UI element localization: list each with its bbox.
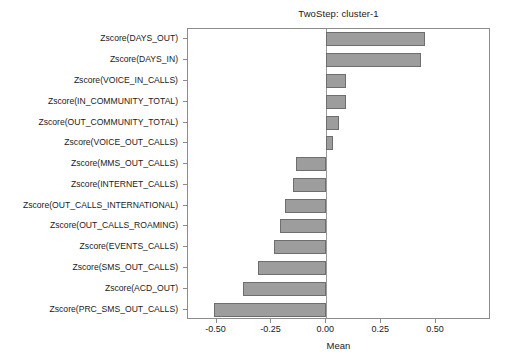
x-axis-tick — [270, 319, 271, 323]
y-axis-label: Zscore(OUT_CALLS_INTERNATIONAL) — [23, 200, 178, 210]
chart-figure: TwoStep: cluster-1 Zscore(DAYS_OUT)Zscor… — [0, 0, 510, 363]
bar — [326, 116, 339, 130]
x-axis-tick-labels: -0.50-0.250.000.250.50 — [187, 324, 490, 338]
bar — [326, 136, 333, 150]
y-axis-label: Zscore(OUT_COMMUNITY_TOTAL) — [38, 117, 178, 127]
bar — [293, 178, 326, 192]
bar — [326, 53, 420, 67]
bar — [274, 240, 327, 254]
y-axis-label: Zscore(PRC_SMS_OUT_CALLS) — [50, 304, 178, 314]
bars-layer — [188, 29, 489, 318]
bar — [285, 199, 327, 213]
y-axis-label: Zscore(INTERNET_CALLS) — [71, 179, 178, 189]
x-axis-tick-label: 0.50 — [426, 324, 444, 334]
bar — [280, 219, 326, 233]
y-axis-label: Zscore(DAYS_OUT) — [100, 33, 178, 43]
y-axis-label: Zscore(VOICE_IN_CALLS) — [74, 75, 178, 85]
bar — [258, 261, 326, 275]
x-axis-title: Mean — [187, 340, 490, 351]
y-axis-label: Zscore(SMS_OUT_CALLS) — [72, 262, 178, 272]
bar — [326, 32, 425, 46]
y-axis-label: Zscore(MMS_OUT_CALLS) — [71, 158, 178, 168]
y-axis-label: Zscore(DAYS_IN) — [110, 54, 178, 64]
y-axis-category-labels: Zscore(DAYS_OUT)Zscore(DAYS_IN)Zscore(VO… — [0, 28, 184, 319]
bar — [243, 282, 326, 296]
bar — [214, 303, 326, 317]
y-axis-label: Zscore(VOICE_OUT_CALLS) — [64, 137, 178, 147]
y-axis-label: Zscore(EVENTS_CALLS) — [80, 241, 178, 251]
x-axis-tick — [325, 319, 326, 323]
y-axis-label: Zscore(IN_COMMUNITY_TOTAL) — [48, 96, 178, 106]
x-axis-tick — [380, 319, 381, 323]
x-axis-tick — [435, 319, 436, 323]
bar — [326, 95, 346, 109]
x-axis-tick-label: 0.25 — [371, 324, 389, 334]
bar — [296, 157, 327, 171]
y-axis-label: Zscore(ACD_OUT) — [105, 283, 178, 293]
x-axis-tick-label: 0.00 — [317, 324, 335, 334]
x-axis-tick-label: -0.50 — [205, 324, 226, 334]
y-axis-label: Zscore(OUT_CALLS_ROAMING) — [50, 220, 178, 230]
plot-area — [187, 28, 490, 319]
x-axis-tick — [216, 319, 217, 323]
x-axis-tick-label: -0.25 — [260, 324, 281, 334]
chart-title: TwoStep: cluster-1 — [187, 8, 490, 19]
bar — [326, 74, 346, 88]
